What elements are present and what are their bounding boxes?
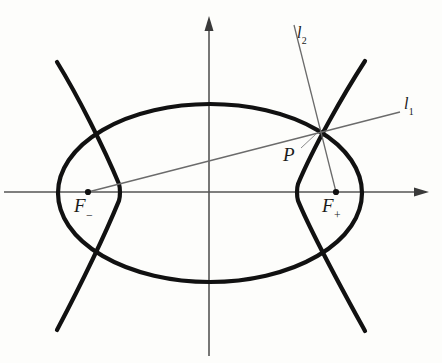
label-focus-positive-letter: F [322,195,334,216]
x-axis-arrowhead [414,188,429,197]
label-focus-negative-letter: F [74,195,86,216]
label-focus-positive: F+ [322,196,340,220]
label-line-l2-subscript: 2 [302,35,307,46]
label-line-l2-letter: l [297,24,301,41]
hyperbola-group [57,61,365,331]
line-l2 [294,25,336,192]
ellipse-group [58,104,362,282]
label-focus-negative: F− [74,196,92,220]
ellipse-curve [58,104,362,282]
label-point-p: P [283,145,295,164]
label-line-l1: l1 [404,96,413,115]
label-focus-negative-subscript: − [86,209,93,222]
label-line-l2: l2 [297,25,306,44]
figure-canvas [0,0,442,363]
y-axis-arrowhead [205,16,214,31]
label-point-p-letter: P [283,144,295,165]
line-l1 [88,112,400,192]
label-line-l1-subscript: 1 [409,106,414,117]
geometry-figure: F− F+ P l1 l2 [0,0,442,363]
label-focus-positive-subscript: + [334,209,341,222]
label-line-l1-letter: l [404,95,408,112]
